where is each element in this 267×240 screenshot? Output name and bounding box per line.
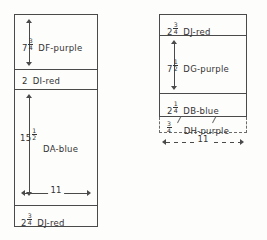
left-cut-layout-panel: 734DF-purple 2DI-red 1512 DA-blue 11 234… <box>14 14 98 227</box>
width-arrow-left-panel: 11 <box>25 193 87 194</box>
material-di-red: DI-red <box>33 76 61 86</box>
dimension-dh-purple: 34 <box>166 121 172 135</box>
dimension-df-purple: 734 <box>22 38 33 52</box>
fraction-dg-purple: 12 <box>173 59 178 72</box>
width-value-left-panel: 11 <box>48 186 64 195</box>
label-dg-purple: 712DG-purple <box>167 59 229 73</box>
fraction-da-blue: 12 <box>32 128 37 141</box>
fraction-dh-purple: 34 <box>167 121 172 134</box>
dimension-di-red: 2 <box>22 77 28 86</box>
width-value-right-panel: 11 <box>195 135 211 144</box>
material-df-purple: DF-purple <box>38 43 82 53</box>
right-cut-layout-panel: 234DJ-red 712DG-purple 214DB-blue <box>159 14 247 117</box>
fraction-dj-red-2: 34 <box>173 22 178 35</box>
label-dj-red: 234DJ-red <box>21 213 65 227</box>
material-dg-purple: DG-purple <box>183 64 229 74</box>
fraction-dj-red: 34 <box>27 213 32 226</box>
dimension-db-blue: 214 <box>167 101 178 115</box>
dimension-dj-red-2: 234 <box>167 22 178 36</box>
material-db-blue: DB-blue <box>183 106 219 116</box>
dimension-arrow-da-blue <box>29 98 30 192</box>
label-df-purple: 734DF-purple <box>22 38 82 52</box>
fraction-df-purple: 34 <box>28 38 33 51</box>
material-da-blue: DA-blue <box>43 145 78 154</box>
width-arrow-right-panel: 11 <box>166 142 240 143</box>
label-db-blue: 214DB-blue <box>167 101 219 115</box>
dimension-dj-red: 234 <box>21 213 32 227</box>
dimension-da-blue: 1512 <box>20 128 37 142</box>
dimension-dg-purple: 712 <box>167 59 178 73</box>
fraction-db-blue: 14 <box>173 101 178 114</box>
label-dj-red-2: 234DJ-red <box>167 22 211 36</box>
diagram-canvas: 734DF-purple 2DI-red 1512 DA-blue 11 234… <box>0 0 267 240</box>
material-dj-red: DJ-red <box>37 218 64 228</box>
label-di-red: 2DI-red <box>22 77 60 86</box>
